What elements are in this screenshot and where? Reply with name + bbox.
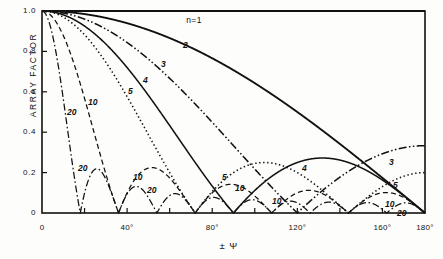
annotation-n1: n=1 [186, 15, 202, 25]
curve-label-20-lobe2: 20 [147, 185, 156, 195]
curve-label-5-right: 5 [393, 180, 398, 190]
x-tick-160: 160° [365, 223, 399, 232]
curve-label-2: 2 [183, 40, 188, 50]
curve-label-20: 20 [67, 107, 76, 117]
curve-label-10-lobe3: 10 [272, 196, 281, 206]
x-tick-180: 180° [408, 223, 442, 232]
x-tick-0: 0 [25, 223, 59, 232]
curve-label-5-lobe: 5 [222, 172, 227, 182]
curve-label-10-lobe1: 10 [133, 172, 142, 182]
y-tick-1.0: 1.0 [10, 6, 36, 15]
array-factor-plot [0, 0, 443, 259]
y-tick-0.8: 0.8 [10, 46, 36, 55]
curve-label-20-right: 20 [397, 208, 406, 218]
array-factor-figure: ARRAY FACTOR 1.00.80.60.40.20 040°80°120… [0, 0, 443, 259]
x-tick-40: 40° [110, 223, 144, 232]
curve-label-10-right: 10 [385, 199, 394, 209]
x-axis-title: ± Ψ [220, 240, 239, 251]
y-tick-0: 0 [10, 208, 36, 217]
curve-label-3: 3 [161, 59, 166, 69]
curve-n-3 [42, 11, 425, 213]
y-tick-0.2: 0.2 [10, 168, 36, 177]
curve-n-4 [42, 11, 425, 213]
y-axis-title: ARRAY FACTOR [28, 20, 38, 130]
x-tick-80: 80° [195, 223, 229, 232]
curve-label-3-right: 3 [389, 157, 394, 167]
curve-n-10 [42, 11, 425, 213]
plot-frame [42, 11, 425, 213]
curve-n-20 [42, 11, 425, 213]
curve-label-4: 4 [143, 75, 148, 85]
curve-group [42, 11, 425, 213]
curve-n-5 [42, 11, 425, 213]
y-tick-0.4: 0.4 [10, 127, 36, 136]
x-tick-120: 120° [280, 223, 314, 232]
curve-label-20-lobe1: 20 [78, 163, 87, 173]
curve-label-5: 5 [128, 86, 133, 96]
curve-label-10: 10 [88, 97, 97, 107]
curve-label-4-lobe: 4 [302, 163, 307, 173]
curve-n-2 [42, 11, 425, 213]
y-tick-0.6: 0.6 [10, 87, 36, 96]
curve-label-10-lobe2: 10 [235, 183, 244, 193]
